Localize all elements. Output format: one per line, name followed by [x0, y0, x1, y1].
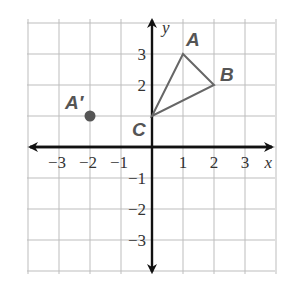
points: A′ — [64, 92, 96, 122]
x-tick-label: 3 — [241, 153, 250, 172]
vertex-label-c: C — [132, 119, 146, 140]
x-tick-label: −1 — [110, 153, 128, 172]
x-axis-label: x — [263, 153, 272, 172]
coordinate-plane: −3−2−1123x32−1−2−3y ABC A′ — [0, 0, 289, 285]
tick-labels: −3−2−1123x32−1−2−3y — [48, 18, 273, 250]
y-axis-label: y — [160, 18, 170, 37]
y-tick-label: −1 — [128, 169, 146, 188]
x-tick-label: 2 — [210, 153, 219, 172]
x-tick-label: 1 — [179, 153, 188, 172]
y-tick-label: 3 — [138, 45, 147, 64]
y-tick-label: 2 — [138, 76, 147, 95]
x-tick-label: −3 — [48, 153, 66, 172]
y-tick-label: −3 — [128, 231, 146, 250]
y-tick-label: −2 — [128, 200, 146, 219]
axes — [30, 20, 272, 272]
vertex-label-a: A — [185, 29, 200, 50]
point-label-a-prime: A′ — [64, 92, 85, 113]
point-a-prime — [85, 111, 96, 122]
vertex-label-b: B — [220, 64, 234, 85]
x-tick-label: −2 — [79, 153, 97, 172]
